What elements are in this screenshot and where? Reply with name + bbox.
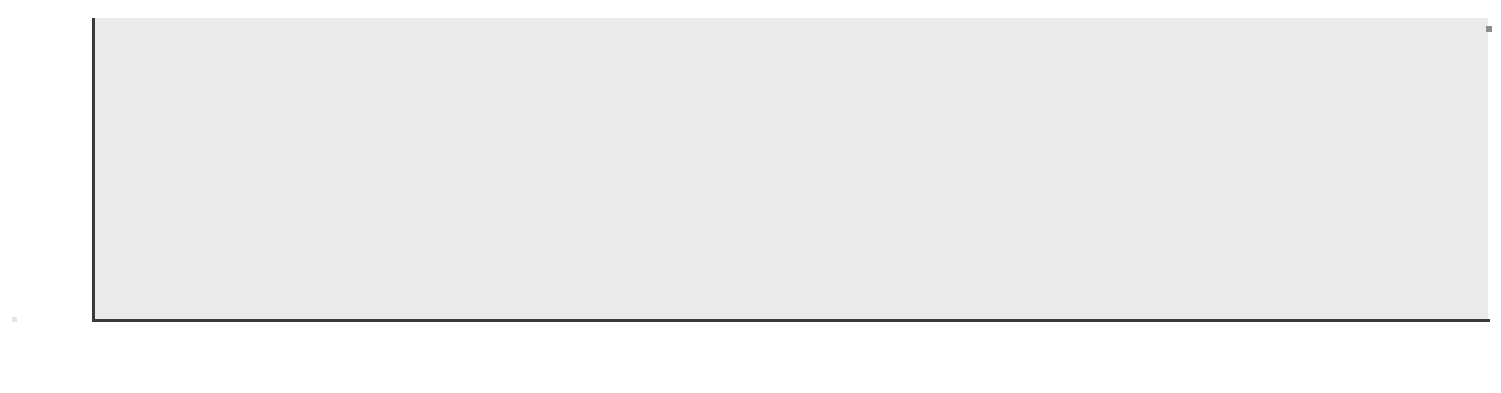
scan-artifact-speck-left bbox=[12, 317, 17, 322]
plot-area bbox=[95, 18, 1488, 319]
x-axis-line bbox=[92, 319, 1490, 322]
scan-artifact-speck bbox=[1486, 26, 1492, 32]
bar-chart bbox=[0, 0, 1501, 393]
